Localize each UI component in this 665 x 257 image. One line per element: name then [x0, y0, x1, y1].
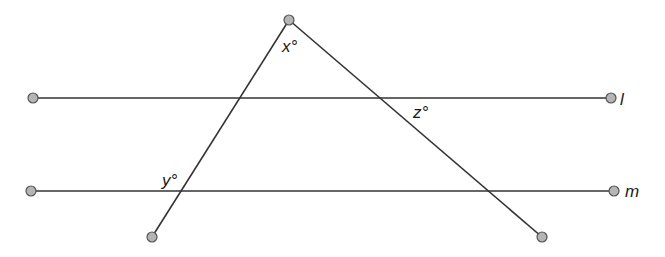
- point-right-bottom: [537, 232, 547, 242]
- angle-y-label: y°: [161, 171, 178, 190]
- point-m-left: [26, 186, 36, 196]
- point-m-right: [609, 186, 619, 196]
- point-l-left: [28, 93, 38, 103]
- point-apex: [284, 15, 294, 25]
- line-m-label: m: [625, 182, 639, 201]
- point-l-right: [606, 93, 616, 103]
- angle-x-label: x°: [281, 37, 298, 56]
- geometry-diagram: x° y° z° l m: [0, 0, 665, 257]
- left-transversal: [152, 20, 289, 237]
- line-l-label: l: [620, 90, 625, 109]
- angle-z-label: z°: [412, 103, 429, 122]
- point-left-bottom: [147, 232, 157, 242]
- right-transversal: [289, 20, 542, 237]
